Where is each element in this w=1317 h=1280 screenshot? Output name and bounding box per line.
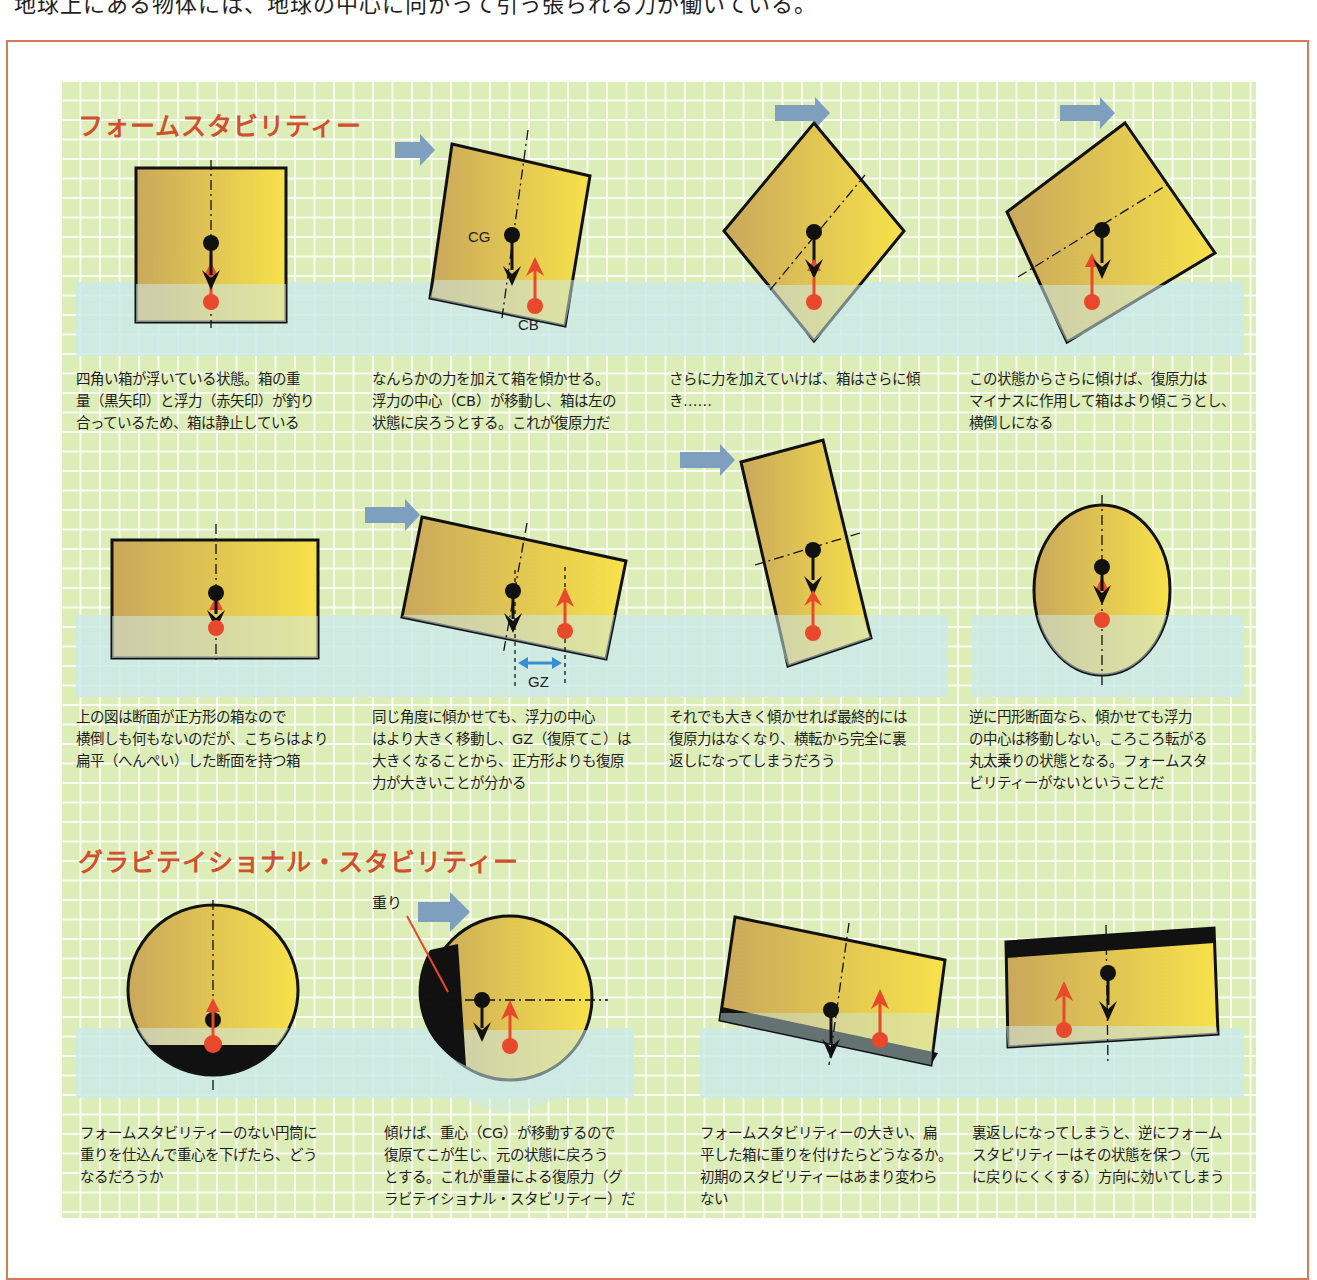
diagram-square-capsizing [990, 95, 1230, 355]
center-of-buoyancy-icon [203, 294, 219, 310]
weight-ballast [419, 944, 466, 1066]
diagram-flat-box-tilted: GZ [360, 495, 620, 695]
gz-arrow-right-icon [552, 657, 562, 669]
page-top-text-fragment: 地球上にある物体には、地球の中心に向かって引っ張られる力が働いている。 [14, 0, 817, 16]
diagram-circle-section [1010, 465, 1210, 695]
diagram-flat-box-upright [100, 520, 330, 670]
caption-flat-box-tilted: 同じ角度に傾かせても、浮力の中心 はより大きく移動し、GZ（復原てこ）は 大きく… [372, 706, 662, 794]
diagram-weighted-cylinder-tilted: 重り [370, 888, 630, 1088]
caption-square-capsizing: この状態からさらに傾けば、復原力は マイナスに作用して箱はより傾こうとし、 横倒… [969, 368, 1259, 434]
diagram-weighted-flat-box-inverted [1000, 925, 1220, 1065]
label-weight: 重り [372, 894, 402, 911]
caption-weighted-cylinder-upright: フォームスタビリティーのない円筒に 重りを仕込んで重心を下げたら、どう なるだろ… [80, 1122, 370, 1188]
gz-arrow-left-icon [518, 657, 528, 669]
label-gz: GZ [528, 673, 549, 690]
caption-square-45deg: さらに力を加えていけば、箱はさらに傾 き…… [669, 368, 959, 412]
section-title-gravitational-stability: グラビテイショナル・スタビリティー [78, 842, 519, 878]
label-cg: CG [468, 228, 491, 245]
caption-circle-section: 逆に円形断面なら、傾かせても浮力 の中心は移動しない。ころころ転がる 丸太乗りの… [969, 706, 1259, 794]
diagram-square-tilted: CG CB [390, 130, 590, 340]
push-force-arrow-icon [395, 134, 435, 166]
caption-weighted-flat-box-tilted: フォームスタビリティーの大きい、扁 平した箱に重りを付けたらどうなるか。 初期の… [700, 1122, 990, 1210]
caption-flat-box-upright: 上の図は断面が正方形の箱なので 横倒しも何もないのだが、こちらはより 扁平（へん… [76, 706, 366, 772]
diagram-weighted-cylinder-upright [118, 880, 318, 1100]
diagram-flat-box-capsized [678, 440, 908, 680]
caption-square-tilted: なんらかの力を加えて箱を傾かせる。 浮力の中心（CB）が移動し、箱は左の 状態に… [372, 368, 662, 434]
caption-square-upright: 四角い箱が浮いている状態。箱の重 量（黒矢印）と浮力（赤矢印）が釣り 合っている… [76, 368, 366, 434]
diagram-square-45deg [690, 95, 930, 355]
caption-flat-box-capsized: それでも大きく傾かせれば最終的には 復原力はなくなり、横転から完全に裏 返しにな… [669, 706, 959, 772]
diagram-weighted-flat-box-tilted [715, 915, 955, 1065]
diagram-square-upright [120, 150, 310, 340]
label-cb: CB [518, 316, 539, 333]
caption-weighted-cylinder-tilted: 傾けば、重心（CG）が移動するので 復原てこが生じ、元の状態に戻ろう とする。こ… [384, 1122, 674, 1210]
section-title-form-stability: フォームスタビリティー [78, 106, 362, 142]
caption-weighted-flat-box-inverted: 裏返しになってしまうと、逆にフォーム スタビリティーはその状態を保つ（元 に戻り… [972, 1122, 1262, 1188]
